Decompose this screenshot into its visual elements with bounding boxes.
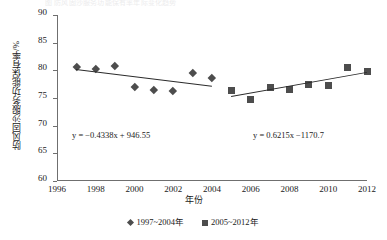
chart-figure: 图 防风固沙服务功能保有率年际变化趋势 防风固沙服务功能保有率/% 606570… bbox=[0, 0, 387, 240]
y-axis-title: 防风固沙服务功能保有率/% bbox=[11, 28, 25, 163]
data-point-square bbox=[247, 96, 254, 103]
data-point-diamond bbox=[131, 83, 139, 91]
legend-item-label: 1997~2004年 bbox=[136, 218, 184, 227]
x-tick-label: 1998 bbox=[87, 185, 105, 194]
x-tick-label: 2004 bbox=[203, 185, 221, 194]
y-axis-line bbox=[57, 15, 58, 181]
trendline-equation-1: y = −0.4338x + 946.55 bbox=[72, 131, 150, 140]
chart-legend: 1997~2004年2005~2012年 bbox=[0, 218, 387, 227]
data-point-diamond bbox=[208, 74, 216, 82]
y-tick-label: 60 bbox=[38, 174, 47, 183]
y-tick-label: 80 bbox=[38, 63, 47, 72]
x-tick-label: 1996 bbox=[48, 185, 66, 194]
x-tick-label: 2000 bbox=[126, 185, 144, 194]
y-tick-label: 65 bbox=[38, 146, 47, 155]
y-tick: 60 bbox=[53, 181, 57, 182]
x-tick-label: 2010 bbox=[319, 185, 337, 194]
data-point-diamond bbox=[150, 86, 158, 94]
y-tick: 75 bbox=[53, 98, 57, 99]
legend-item-label: 2005~2012年 bbox=[211, 218, 259, 227]
x-tick-label: 2012 bbox=[358, 185, 376, 194]
data-point-square bbox=[325, 82, 332, 89]
trendline-2 bbox=[231, 72, 367, 97]
square-marker bbox=[202, 220, 208, 226]
y-tick-label: 75 bbox=[38, 91, 47, 100]
y-tick-label: 70 bbox=[38, 119, 47, 128]
data-point-diamond bbox=[189, 69, 197, 77]
y-tick-label: 90 bbox=[38, 8, 47, 17]
x-axis-title: 年份 bbox=[0, 196, 387, 205]
y-tick: 85 bbox=[53, 43, 57, 44]
legend-item: 1997~2004年 bbox=[128, 218, 184, 227]
data-point-diamond bbox=[169, 87, 177, 95]
y-tick-label: 85 bbox=[38, 36, 47, 45]
data-point-square bbox=[228, 87, 235, 94]
y-tick: 65 bbox=[53, 153, 57, 154]
y-tick: 90 bbox=[53, 15, 57, 16]
x-tick-label: 2006 bbox=[242, 185, 260, 194]
data-point-diamond bbox=[111, 62, 119, 70]
data-point-square bbox=[344, 64, 351, 71]
y-tick: 80 bbox=[53, 70, 57, 71]
plot-area: 60657075808590 1996199820002002200420062… bbox=[57, 15, 367, 181]
x-tick-label: 2008 bbox=[281, 185, 299, 194]
x-axis-line bbox=[57, 180, 367, 181]
top-caption-remnant: 图 防风固沙服务功能保有率年际变化趋势 bbox=[45, 0, 345, 6]
legend-item: 2005~2012年 bbox=[202, 218, 259, 227]
trendline-equation-2: y = 0.6215x −1170.7 bbox=[253, 131, 324, 140]
x-tick-label: 2002 bbox=[164, 185, 182, 194]
y-tick: 70 bbox=[53, 126, 57, 127]
diamond-marker bbox=[127, 219, 134, 226]
